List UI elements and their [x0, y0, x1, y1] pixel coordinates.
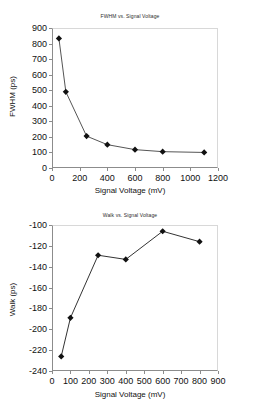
x-tick-mark — [52, 168, 53, 171]
x-tick-mark — [144, 371, 145, 374]
x-tick-mark — [200, 371, 201, 374]
x-tick-label: 1200 — [208, 174, 228, 183]
data-point-marker — [132, 147, 138, 153]
x-axis-title-walk: Signal Voltage (mV) — [0, 390, 260, 399]
x-tick-label: 200 — [72, 174, 87, 183]
x-tick-mark — [218, 371, 219, 374]
data-point-marker — [160, 149, 166, 155]
data-point-marker — [56, 35, 62, 41]
x-tick-mark — [190, 168, 191, 171]
x-tick-mark — [126, 371, 127, 374]
x-tick-label: 800 — [155, 174, 170, 183]
x-tick-label: 400 — [118, 377, 133, 386]
x-tick-mark — [163, 371, 164, 374]
y-tick-label: -160 — [29, 283, 47, 292]
y-tick-label: -240 — [29, 367, 47, 376]
y-tick-label: 500 — [32, 86, 47, 95]
plot-area-fwhm: 0100200300400500600700800900 02004006008… — [0, 0, 260, 205]
y-axis-title-fwhm: FWHM (ps) — [8, 67, 17, 127]
x-tick-label: 200 — [81, 377, 96, 386]
x-tick-mark — [135, 168, 136, 171]
x-tick-label: 600 — [155, 377, 170, 386]
y-tick-label: 800 — [32, 39, 47, 48]
y-tick-label: -220 — [29, 346, 47, 355]
x-tick-mark — [218, 168, 219, 171]
y-tick-mark — [49, 137, 52, 138]
y-tick-mark — [49, 225, 52, 226]
data-point-marker — [58, 353, 64, 359]
y-tick-label: 200 — [32, 132, 47, 141]
y-tick-mark — [49, 152, 52, 153]
y-tick-label: -140 — [29, 262, 47, 271]
y-tick-label: 100 — [32, 148, 47, 157]
y-tick-mark — [49, 90, 52, 91]
x-tick-label: 900 — [210, 377, 225, 386]
y-tick-mark — [49, 308, 52, 309]
x-tick-label: 0 — [49, 174, 54, 183]
figure-page: FWHM vs. Signal Voltage 0100200300400500… — [0, 0, 260, 411]
data-point-marker — [83, 133, 89, 139]
x-tick-mark — [107, 168, 108, 171]
y-axis-title-walk: Walk (ps) — [8, 272, 17, 328]
y-tick-mark — [49, 246, 52, 247]
y-tick-label: -200 — [29, 325, 47, 334]
x-tick-mark — [181, 371, 182, 374]
x-tick-label: 1000 — [180, 174, 200, 183]
data-point-marker — [67, 315, 73, 321]
x-tick-mark — [70, 371, 71, 374]
x-axis-title-fwhm: Signal Voltage (mV) — [0, 186, 260, 195]
x-tick-label: 0 — [49, 377, 54, 386]
y-tick-mark — [49, 350, 52, 351]
x-tick-mark — [89, 371, 90, 374]
x-tick-label: 400 — [100, 174, 115, 183]
x-tick-mark — [52, 371, 53, 374]
y-tick-mark — [49, 288, 52, 289]
x-tick-label: 100 — [63, 377, 78, 386]
y-tick-mark — [49, 44, 52, 45]
y-tick-mark — [49, 121, 52, 122]
x-tick-mark — [107, 371, 108, 374]
y-tick-label: 0 — [42, 164, 47, 173]
y-tick-mark — [49, 329, 52, 330]
data-point-marker — [95, 252, 101, 258]
x-tick-label: 800 — [192, 377, 207, 386]
y-tick-label: 600 — [32, 70, 47, 79]
x-tick-label: 300 — [100, 377, 115, 386]
x-tick-mark — [80, 168, 81, 171]
y-tick-label: -180 — [29, 304, 47, 313]
y-tick-label: 400 — [32, 101, 47, 110]
x-tick-mark — [163, 168, 164, 171]
y-tick-label: 900 — [32, 24, 47, 33]
plot-area-walk: -240-220-200-180-160-140-120-100 0100200… — [0, 205, 260, 411]
y-tick-label: 700 — [32, 55, 47, 64]
data-point-marker — [201, 149, 207, 155]
series-line — [61, 231, 199, 356]
x-tick-label: 500 — [137, 377, 152, 386]
data-point-marker — [196, 239, 202, 245]
y-tick-label: 300 — [32, 117, 47, 126]
data-point-marker — [63, 89, 69, 95]
y-tick-label: -120 — [29, 241, 47, 250]
x-tick-label: 700 — [174, 377, 189, 386]
chart-fwhm-vs-signal-voltage: FWHM vs. Signal Voltage 0100200300400500… — [0, 0, 260, 205]
y-tick-label: -100 — [29, 221, 47, 230]
y-tick-mark — [49, 106, 52, 107]
series-line — [59, 38, 204, 152]
y-tick-mark — [49, 267, 52, 268]
y-tick-mark — [49, 28, 52, 29]
x-tick-label: 600 — [127, 174, 142, 183]
data-point-marker — [104, 142, 110, 148]
y-tick-mark — [49, 59, 52, 60]
chart-walk-vs-signal-voltage: Walk vs. Signal Voltage -240-220-200-180… — [0, 205, 260, 411]
y-tick-mark — [49, 75, 52, 76]
